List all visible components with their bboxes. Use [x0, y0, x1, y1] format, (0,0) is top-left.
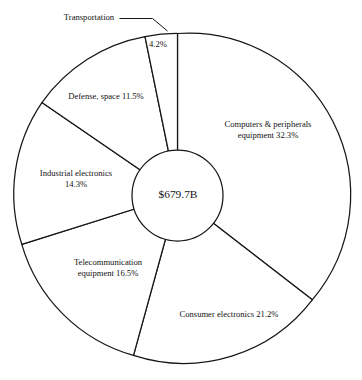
slice-label-computers-peripherals: Computers & peripherals equipment 32.3% [200, 119, 336, 141]
slice-label-telecommunication-equipment-line1: Telecommunication [74, 257, 142, 267]
slice-value-transportation-text: 4.2% [149, 39, 167, 49]
slice-label-defense-space-line1: Defense, space 11.5% [68, 91, 144, 101]
slice-value-transportation: 4.2% [137, 39, 179, 50]
slice-label-industrial-electronics-line2: 14.3% [18, 179, 134, 190]
slice-label-consumer-electronics: Consumer electronics 21.2% [157, 309, 301, 320]
slice-label-telecommunication-equipment: Telecommunication equipment 16.5% [48, 257, 168, 279]
slice-label-industrial-electronics-line1: Industrial electronics [40, 168, 112, 178]
slice-label-transportation: Transportation [58, 12, 120, 23]
slice-label-industrial-electronics: Industrial electronics 14.3% [18, 168, 134, 190]
slice-label-transportation-line1: Transportation [64, 12, 114, 22]
slice-label-computers-peripherals-line1: Computers & peripherals [225, 119, 312, 129]
pie-chart-figure: Transportation 4.2% Defense, space 11.5%… [0, 0, 362, 380]
center-total-value: $679.7B [132, 188, 224, 200]
transportation-leader-line [120, 19, 168, 32]
slice-label-defense-space: Defense, space 11.5% [41, 91, 171, 102]
slice-label-telecommunication-equipment-line2: equipment 16.5% [48, 268, 168, 279]
slice-label-consumer-electronics-line1: Consumer electronics 21.2% [179, 309, 278, 319]
slice-label-computers-peripherals-line2: equipment 32.3% [200, 130, 336, 141]
